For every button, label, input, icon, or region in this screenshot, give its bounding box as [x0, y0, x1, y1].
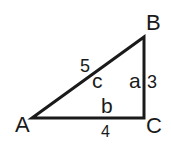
side-length-c: 5 [80, 56, 90, 76]
vertex-label-b: B [146, 10, 161, 35]
side-length-b: 4 [101, 123, 110, 140]
triangle-abc [32, 37, 144, 118]
triangle-diagram: A B C 5 c a 3 b 4 [0, 0, 171, 152]
side-label-a: a [129, 69, 141, 92]
vertex-label-a: A [15, 112, 30, 137]
side-label-b: b [101, 94, 113, 117]
side-label-c: c [92, 69, 103, 92]
side-length-a: 3 [147, 72, 157, 92]
vertex-label-c: C [146, 113, 162, 138]
